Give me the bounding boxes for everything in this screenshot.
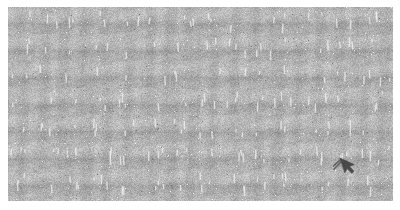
cursor-label: Pointer <box>0 0 1 1</box>
degraded-content-region[interactable] <box>8 7 393 201</box>
content-region-label: Unreadable degraded content <box>0 0 1 1</box>
screenshot-root: Unreadable degraded content Pointer <box>0 0 400 210</box>
